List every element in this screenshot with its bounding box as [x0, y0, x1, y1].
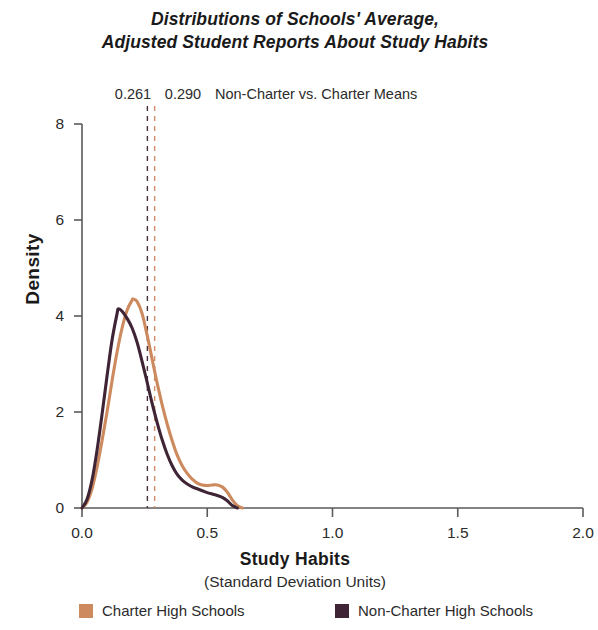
x-axis-ticks: [82, 508, 583, 517]
x-tick-label: 0.0: [52, 524, 112, 542]
x-tick-label: 0.5: [177, 524, 237, 542]
legend-swatch-charter: [79, 604, 93, 618]
y-tick-label: 0: [34, 499, 64, 517]
x-tick-label: 1.0: [303, 524, 363, 542]
y-tick-label: 6: [34, 211, 64, 229]
legend-label-non-charter: Non-Charter High Schools: [358, 602, 533, 619]
x-axis-label: Study Habits: [0, 549, 590, 570]
mean-reference-lines: [147, 106, 154, 508]
density-curve-non-charter: [82, 309, 237, 508]
legend-swatch-non-charter: [335, 604, 349, 618]
x-axis-sublabel: (Standard Deviation Units): [0, 573, 590, 591]
y-axis-ticks: [74, 124, 82, 508]
density-curves: [82, 299, 242, 508]
x-tick-label: 1.5: [428, 524, 488, 542]
y-tick-label: 2: [34, 403, 64, 421]
chart-legend: Charter High Schools Non-Charter High Sc…: [0, 602, 590, 626]
legend-label-charter: Charter High Schools: [102, 602, 245, 619]
legend-item-charter: Charter High Schools: [79, 602, 245, 619]
axis-group: [82, 124, 583, 508]
y-tick-label: 4: [34, 307, 64, 325]
y-tick-label: 8: [34, 115, 64, 133]
density-curve-charter: [82, 299, 242, 508]
x-tick-label: 2.0: [553, 524, 598, 542]
legend-item-non-charter: Non-Charter High Schools: [335, 602, 533, 619]
